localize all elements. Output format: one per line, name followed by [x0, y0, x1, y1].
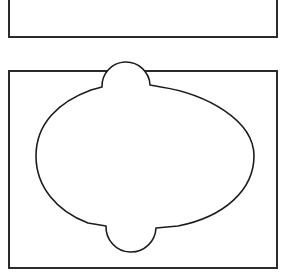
top-panel-clip — [10, 0, 276, 36]
bottom-panel — [8, 70, 278, 269]
top-panel — [8, 0, 278, 38]
bottom-panel-drawing — [10, 72, 276, 267]
oval-with-bumps-shape-bottom — [36, 62, 254, 252]
top-panel-drawing — [10, 0, 276, 36]
figure-root — [0, 0, 286, 274]
